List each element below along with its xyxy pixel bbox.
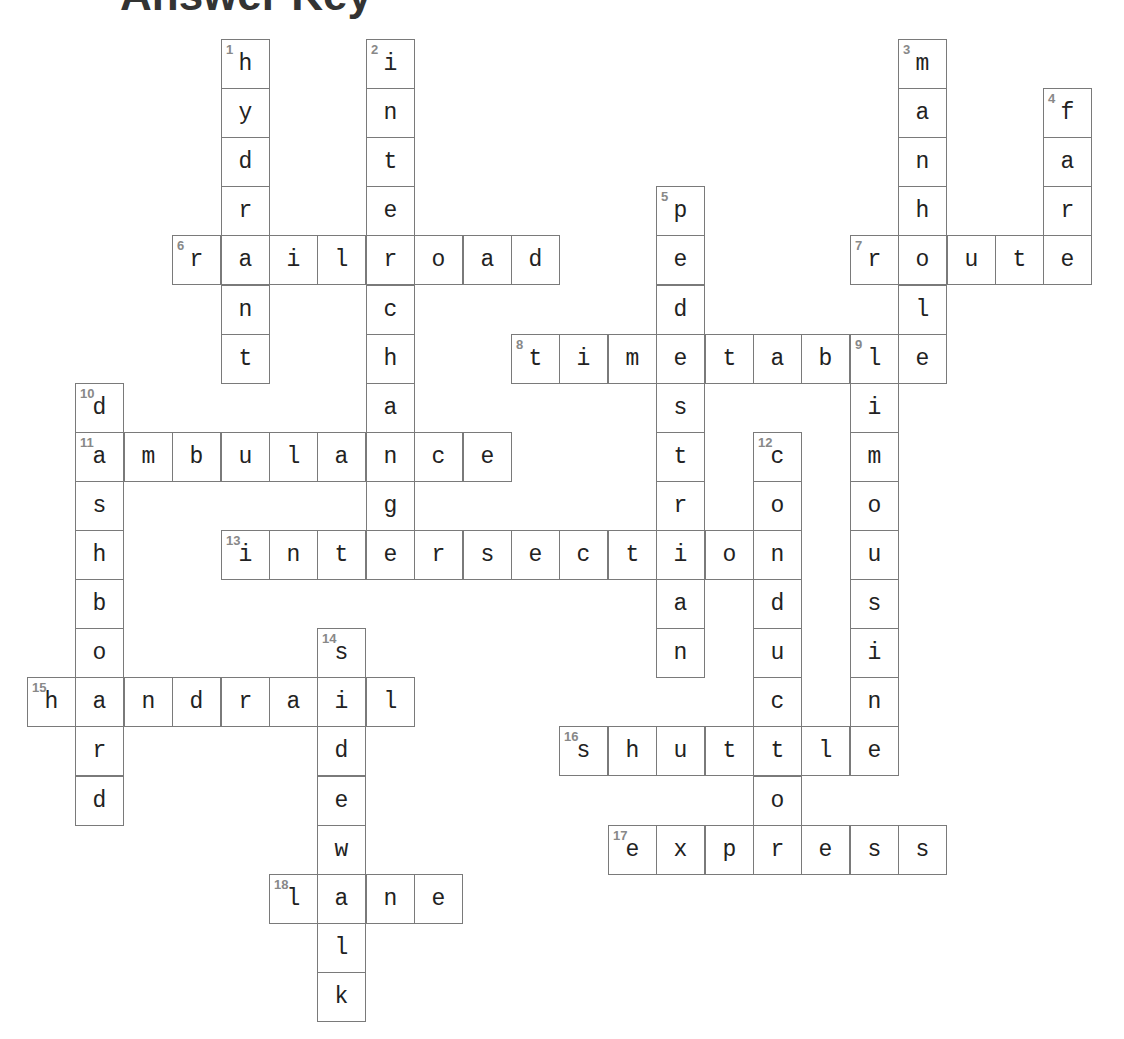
crossword-cell[interactable]: l	[366, 677, 415, 727]
crossword-cell[interactable]: s	[463, 530, 512, 580]
crossword-cell[interactable]: 13i	[221, 530, 270, 580]
crossword-cell[interactable]: t	[995, 235, 1044, 285]
crossword-cell[interactable]: n	[898, 137, 947, 187]
crossword-cell[interactable]: s	[898, 825, 947, 875]
crossword-cell[interactable]: l	[269, 432, 318, 482]
crossword-cell[interactable]: 18l	[269, 874, 318, 924]
crossword-cell[interactable]: r	[221, 186, 270, 236]
crossword-cell[interactable]: s	[850, 579, 899, 629]
crossword-cell[interactable]: o	[850, 481, 899, 531]
crossword-cell[interactable]: l	[317, 235, 366, 285]
crossword-cell[interactable]: d	[656, 285, 705, 335]
crossword-cell[interactable]: d	[317, 726, 366, 776]
crossword-cell[interactable]: a	[463, 235, 512, 285]
crossword-cell[interactable]: 5p	[656, 186, 705, 236]
crossword-cell[interactable]: 2i	[366, 39, 415, 89]
crossword-cell[interactable]: l	[898, 285, 947, 335]
crossword-cell[interactable]: d	[75, 776, 124, 826]
crossword-cell[interactable]: 12c	[753, 432, 802, 482]
crossword-cell[interactable]: m	[850, 432, 899, 482]
crossword-cell[interactable]: u	[221, 432, 270, 482]
crossword-cell[interactable]: r	[366, 235, 415, 285]
crossword-cell[interactable]: d	[172, 677, 221, 727]
crossword-cell[interactable]: o	[753, 481, 802, 531]
crossword-cell[interactable]: a	[753, 334, 802, 384]
crossword-cell[interactable]: t	[705, 334, 754, 384]
crossword-cell[interactable]: 16s	[559, 726, 608, 776]
crossword-cell[interactable]: t	[753, 726, 802, 776]
crossword-cell[interactable]: d	[753, 579, 802, 629]
crossword-cell[interactable]: c	[753, 677, 802, 727]
crossword-cell[interactable]: e	[898, 334, 947, 384]
crossword-cell[interactable]: t	[221, 334, 270, 384]
crossword-cell[interactable]: i	[656, 530, 705, 580]
crossword-cell[interactable]: a	[221, 235, 270, 285]
crossword-cell[interactable]: h	[898, 186, 947, 236]
crossword-cell[interactable]: n	[366, 874, 415, 924]
crossword-cell[interactable]: 10d	[75, 383, 124, 433]
crossword-cell[interactable]: e	[801, 825, 850, 875]
crossword-cell[interactable]: a	[75, 677, 124, 727]
crossword-cell[interactable]: s	[75, 481, 124, 531]
crossword-cell[interactable]: r	[656, 481, 705, 531]
crossword-cell[interactable]: t	[705, 726, 754, 776]
crossword-cell[interactable]: e	[317, 776, 366, 826]
crossword-cell[interactable]: o	[705, 530, 754, 580]
crossword-cell[interactable]: 1h	[221, 39, 270, 89]
crossword-cell[interactable]: 14s	[317, 628, 366, 678]
crossword-cell[interactable]: u	[753, 628, 802, 678]
crossword-cell[interactable]: r	[75, 726, 124, 776]
crossword-cell[interactable]: 6r	[172, 235, 221, 285]
crossword-cell[interactable]: r	[414, 530, 463, 580]
crossword-cell[interactable]: e	[366, 530, 415, 580]
crossword-cell[interactable]: i	[850, 383, 899, 433]
crossword-cell[interactable]: e	[1043, 235, 1092, 285]
crossword-cell[interactable]: o	[753, 776, 802, 826]
crossword-cell[interactable]: u	[656, 726, 705, 776]
crossword-cell[interactable]: a	[656, 579, 705, 629]
crossword-cell[interactable]: d	[511, 235, 560, 285]
crossword-cell[interactable]: s	[850, 825, 899, 875]
crossword-cell[interactable]: c	[366, 285, 415, 335]
crossword-cell[interactable]: a	[269, 677, 318, 727]
crossword-cell[interactable]: r	[1043, 186, 1092, 236]
crossword-cell[interactable]: n	[221, 285, 270, 335]
crossword-cell[interactable]: l	[317, 923, 366, 973]
crossword-cell[interactable]: 17e	[608, 825, 657, 875]
crossword-cell[interactable]: r	[753, 825, 802, 875]
crossword-cell[interactable]: t	[317, 530, 366, 580]
crossword-cell[interactable]: n	[850, 677, 899, 727]
crossword-cell[interactable]: h	[75, 530, 124, 580]
crossword-cell[interactable]: m	[608, 334, 657, 384]
crossword-cell[interactable]: n	[366, 432, 415, 482]
crossword-cell[interactable]: t	[656, 432, 705, 482]
crossword-cell[interactable]: e	[366, 186, 415, 236]
crossword-cell[interactable]: i	[269, 235, 318, 285]
crossword-cell[interactable]: n	[366, 88, 415, 138]
crossword-cell[interactable]: r	[221, 677, 270, 727]
crossword-cell[interactable]: h	[608, 726, 657, 776]
crossword-cell[interactable]: e	[414, 874, 463, 924]
crossword-cell[interactable]: e	[850, 726, 899, 776]
crossword-cell[interactable]: e	[511, 530, 560, 580]
crossword-cell[interactable]: 7r	[850, 235, 899, 285]
crossword-cell[interactable]: 11a	[75, 432, 124, 482]
crossword-cell[interactable]: a	[317, 874, 366, 924]
crossword-cell[interactable]: b	[75, 579, 124, 629]
crossword-cell[interactable]: 15h	[27, 677, 76, 727]
crossword-cell[interactable]: k	[317, 972, 366, 1022]
crossword-cell[interactable]: m	[124, 432, 173, 482]
crossword-cell[interactable]: b	[172, 432, 221, 482]
crossword-cell[interactable]: t	[608, 530, 657, 580]
crossword-cell[interactable]: a	[317, 432, 366, 482]
crossword-cell[interactable]: e	[656, 235, 705, 285]
crossword-cell[interactable]: c	[414, 432, 463, 482]
crossword-cell[interactable]: t	[366, 137, 415, 187]
crossword-cell[interactable]: n	[753, 530, 802, 580]
crossword-cell[interactable]: u	[850, 530, 899, 580]
crossword-cell[interactable]: 3m	[898, 39, 947, 89]
crossword-cell[interactable]: e	[463, 432, 512, 482]
crossword-cell[interactable]: a	[366, 383, 415, 433]
crossword-cell[interactable]: h	[366, 334, 415, 384]
crossword-cell[interactable]: l	[801, 726, 850, 776]
